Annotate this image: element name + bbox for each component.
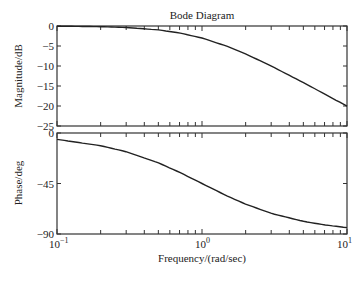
phase-curve: [57, 139, 347, 227]
y-tick-label: −5: [42, 40, 54, 52]
magnitude-panel: 0−5−10−15−20−25: [37, 20, 347, 132]
y-tick-label: 0: [49, 127, 55, 139]
chart-title: Bode Diagram: [170, 9, 235, 21]
plot-frame: [57, 26, 347, 126]
phase-y-axis-label: Phase/deg: [12, 160, 24, 205]
x-axis-label: Frequency/(rad/sec): [158, 252, 246, 265]
y-tick-label: −20: [37, 100, 55, 112]
phase-panel: 0−45−90: [37, 127, 347, 240]
x-tick-labels: 10−1 100 101: [49, 236, 352, 250]
y-tick-label: 0: [49, 20, 55, 32]
y-tick-label: −10: [37, 60, 55, 72]
bode-chart: Bode Diagram 0−5−10−15−20−25 0−45−90 Mag…: [0, 0, 361, 281]
x-tick-label-2: 101: [337, 236, 352, 250]
x-tick-label-1: 100: [195, 236, 210, 250]
magnitude-curve: [57, 26, 347, 106]
x-tick-label-0: 10−1: [49, 236, 69, 250]
y-tick-label: −15: [37, 80, 55, 92]
y-tick-label: −45: [37, 178, 55, 190]
magnitude-y-axis-label: Magnitude/dB: [12, 44, 24, 108]
